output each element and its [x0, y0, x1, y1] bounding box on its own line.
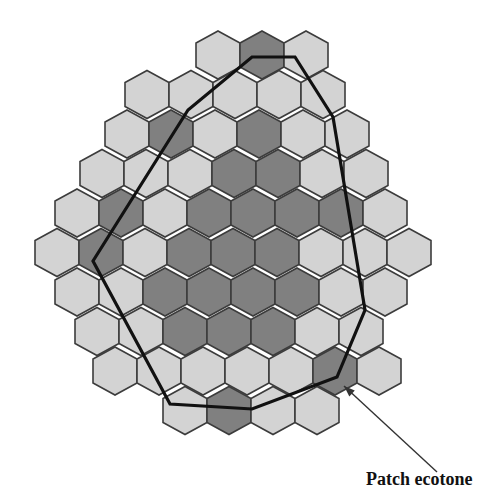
- hex-cell-light: [125, 71, 169, 119]
- hex-cell-light: [387, 229, 431, 277]
- hex-cell-light: [343, 229, 387, 277]
- patch-ecotone-label: Patch ecotone: [366, 469, 472, 490]
- hex-cell-light: [99, 268, 143, 316]
- hex-cell-dark: [143, 268, 187, 316]
- hex-cell-dark: [255, 229, 299, 277]
- hex-cell-light: [35, 229, 79, 277]
- hex-cell-light: [123, 229, 167, 277]
- hex-cell-dark: [187, 268, 231, 316]
- hex-cell-light: [319, 268, 363, 316]
- hex-cell-dark: [231, 268, 275, 316]
- hex-cell-dark: [275, 268, 319, 316]
- hex-cell-light: [55, 268, 99, 316]
- pointer-arrow: [344, 386, 437, 472]
- hex-cell-light: [363, 268, 407, 316]
- hex-cell-dark: [211, 229, 255, 277]
- arrow-line: [344, 386, 437, 472]
- hex-grid: [35, 31, 431, 435]
- hex-cell-dark: [79, 229, 123, 277]
- landscape-hex-diagram: [0, 0, 489, 495]
- hex-cell-light: [299, 229, 343, 277]
- hex-cell-dark: [167, 229, 211, 277]
- hex-cell-light: [55, 189, 99, 237]
